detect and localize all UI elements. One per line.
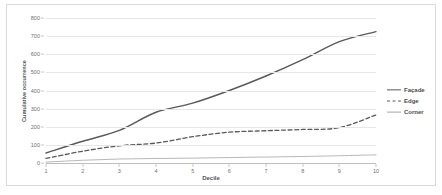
y-tick-mark	[41, 163, 44, 164]
chart-legend: Façade Edge Corner	[387, 84, 442, 117]
x-tick-mark	[376, 164, 377, 167]
y-tick-mark	[41, 72, 44, 73]
legend-label-corner: Corner	[404, 109, 424, 115]
y-tick-mark	[41, 126, 44, 127]
x-tick-mark	[266, 164, 267, 167]
x-axis-title: Decile	[46, 175, 376, 181]
x-tick-mark	[46, 164, 47, 167]
legend-item-corner[interactable]: Corner	[387, 106, 442, 117]
y-tick-label: 700	[31, 33, 40, 39]
gridline	[46, 91, 376, 92]
x-tick-label: 7	[264, 168, 267, 174]
y-tick-mark	[41, 36, 44, 37]
gridline	[46, 127, 376, 128]
y-tick-label: 400	[31, 88, 40, 94]
y-tick-label: 500	[31, 69, 40, 75]
plot-area	[46, 18, 376, 163]
x-tick-label: 2	[81, 168, 84, 174]
y-tick-label: 0	[37, 160, 40, 166]
legend-label-edge: Edge	[404, 98, 419, 104]
series-line-corner	[46, 155, 376, 162]
series-line-edge	[46, 115, 376, 159]
gridline	[46, 36, 376, 37]
y-tick-label: 200	[31, 124, 40, 130]
y-axis-tick-labels: 0100200300400500600700800	[7, 18, 44, 163]
x-tick-label: 3	[118, 168, 121, 174]
x-tick-mark	[156, 164, 157, 167]
y-tick-label: 800	[31, 15, 40, 21]
x-tick-label: 10	[373, 168, 379, 174]
x-tick-mark	[339, 164, 340, 167]
y-tick-label: 600	[31, 51, 40, 57]
y-tick-label: 100	[31, 142, 40, 148]
legend-line-corner-icon	[387, 109, 401, 115]
gridline	[46, 72, 376, 73]
x-tick-mark	[302, 164, 303, 167]
x-tick-label: 4	[154, 168, 157, 174]
gridline	[46, 145, 376, 146]
gridline	[46, 18, 376, 19]
x-tick-mark	[229, 164, 230, 167]
legend-label-facade: Façade	[404, 87, 425, 93]
legend-line-facade-icon	[387, 87, 401, 93]
x-tick-mark	[82, 164, 83, 167]
y-tick-label: 300	[31, 106, 40, 112]
x-tick-label: 5	[191, 168, 194, 174]
y-tick-mark	[41, 108, 44, 109]
y-tick-mark	[41, 18, 44, 19]
legend-item-facade[interactable]: Façade	[387, 84, 442, 95]
y-tick-mark	[41, 90, 44, 91]
series-line-faade	[46, 32, 376, 153]
chart-container: Cumulative occurrence 010020030040050060…	[6, 4, 436, 186]
x-tick-mark	[119, 164, 120, 167]
gridline	[46, 54, 376, 55]
x-tick-label: 1	[44, 168, 47, 174]
gridline	[46, 109, 376, 110]
x-tick-mark	[192, 164, 193, 167]
legend-item-edge[interactable]: Edge	[387, 95, 442, 106]
y-tick-mark	[41, 54, 44, 55]
x-tick-label: 8	[301, 168, 304, 174]
x-tick-label: 6	[228, 168, 231, 174]
y-tick-mark	[41, 144, 44, 145]
x-tick-label: 9	[338, 168, 341, 174]
legend-line-edge-icon	[387, 98, 401, 104]
